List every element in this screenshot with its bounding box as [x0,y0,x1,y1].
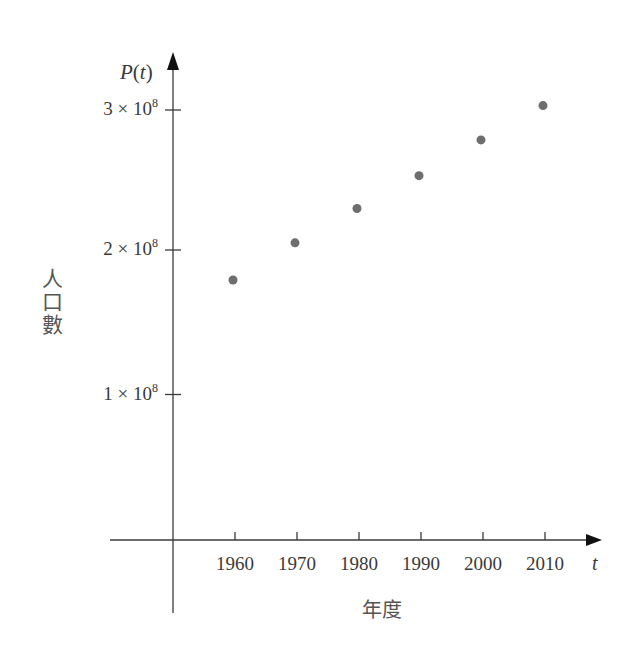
y-axis-symbol-arg: (t) [133,60,153,84]
data-point [539,101,548,110]
data-point [477,135,486,144]
x-tick-label: 2000 [453,553,513,575]
x-tick-label: 1980 [329,553,389,575]
y-tick-label: 1 × 108 [38,381,158,405]
axes [110,52,602,613]
data-point [229,276,238,285]
y-axis-title-char: 口 [41,291,63,314]
data-point [415,171,424,180]
x-tick-label: 1960 [205,553,265,575]
y-axis-title-char: 數 [41,314,63,337]
x-tick-label: 1990 [391,553,451,575]
y-axis-arrow-icon [167,52,179,70]
data-points [229,101,548,284]
y-axis-title: 人 口 數 [41,268,63,337]
x-tick-label: 2010 [515,553,575,575]
y-axis-title-char: 人 [41,268,63,291]
data-point [291,238,300,247]
x-axis-symbol: t [592,552,598,575]
x-tick-label: 1970 [267,553,327,575]
x-axis-title: 年度 [362,594,402,623]
y-tick-label: 2 × 108 [38,236,158,260]
data-point [353,204,362,213]
x-axis-arrow-icon [586,534,602,546]
y-tick-label: 3 × 108 [38,96,158,120]
y-axis-symbol: P(t) [120,60,153,85]
